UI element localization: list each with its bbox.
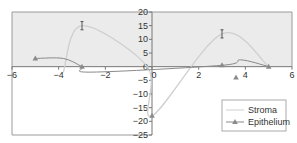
y-tick-label: −5	[138, 75, 148, 85]
epithelium-marker	[233, 75, 239, 80]
chart: −6−4−2024620151050−5−10−15−20−25 StromaE…	[0, 0, 297, 143]
y-tick-label: 5	[143, 48, 148, 58]
x-tick-label: 0	[151, 70, 156, 80]
y-tick-label: −10	[133, 89, 148, 99]
y-tick-label: 10	[138, 34, 148, 44]
y-tick-label: 20	[138, 7, 148, 17]
y-tick-label: −15	[133, 103, 148, 113]
x-tick-label: −6	[7, 70, 17, 80]
x-tick-label: 4	[243, 70, 248, 80]
x-tick-label: −4	[54, 70, 64, 80]
y-tick-label: −20	[133, 116, 148, 126]
legend-label: Stroma	[248, 105, 277, 115]
x-tick-label: 2	[196, 70, 201, 80]
legend-label: Epithelium	[248, 117, 290, 127]
y-tick-label: −25	[133, 130, 148, 140]
y-tick-label: 15	[138, 21, 148, 31]
x-tick-label: 6	[289, 70, 294, 80]
